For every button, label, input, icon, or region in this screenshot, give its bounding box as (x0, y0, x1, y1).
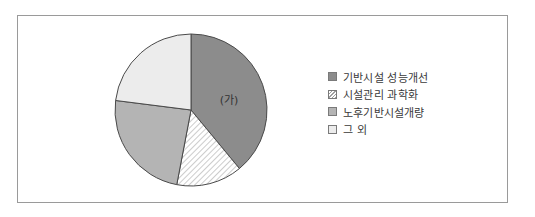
legend-swatch-dark (328, 72, 337, 81)
legend-label: 시설관리 과학화 (343, 86, 418, 102)
legend-label: 기반시설 성능개선 (343, 69, 428, 85)
legend-swatch-hatched (328, 90, 337, 99)
legend-swatch-medium (328, 107, 337, 116)
legend-item-infra-performance: 기반시설 성능개선 (328, 68, 428, 86)
slice-aging-infra (115, 100, 191, 184)
slice-label-ga: (가) (220, 94, 239, 107)
legend-item-other: 그 외 (328, 121, 428, 139)
legend-item-aging-infra: 노후기반시설개량 (328, 103, 428, 121)
slice-other (116, 34, 191, 110)
legend-item-facility-science: 시설관리 과학화 (328, 86, 428, 104)
pie-chart: (가) (0, 0, 535, 217)
legend-label: 노후기반시설개량 (343, 104, 425, 120)
legend: 기반시설 성능개선 시설관리 과학화 노후기반시설개량 그 외 (328, 68, 428, 138)
legend-swatch-light (328, 125, 337, 134)
legend-label: 그 외 (343, 121, 367, 137)
